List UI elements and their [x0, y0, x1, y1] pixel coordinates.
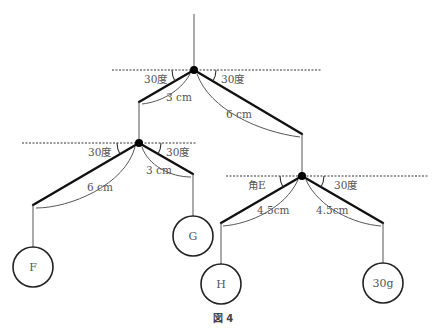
left-pivot: [135, 139, 143, 147]
right-right-angle-arc: [321, 176, 324, 187]
right-right-angle-label: 30度: [334, 179, 358, 191]
left-left-length-label: 6 cm: [87, 181, 113, 193]
right-pivot: [298, 172, 306, 180]
weight-h-label: H: [216, 278, 226, 291]
weight-30g-label: 30g: [372, 277, 393, 290]
left-right-angle-label: 30度: [166, 146, 190, 158]
top-lever-right-arm: [194, 70, 302, 134]
figure-caption: 図 4: [213, 313, 233, 324]
top-left-length-label: 3 cm: [166, 91, 192, 103]
right-left-angle-label: 角E: [248, 179, 266, 191]
mobile-diagram: 30度 30度 3 cm 6 cm 30度 30度 6 cm 3 cm 角E 3…: [0, 0, 438, 333]
top-left-angle-arc: [172, 70, 175, 81]
top-left-angle-label: 30度: [144, 73, 168, 85]
weight-g-label: G: [189, 230, 198, 243]
left-left-angle-arc: [117, 143, 120, 154]
top-right-length-arc: [197, 74, 300, 137]
right-left-length-label: 4.5cm: [257, 204, 290, 216]
top-right-length-label: 6 cm: [226, 108, 252, 120]
top-right-angle-arc: [213, 70, 216, 81]
weight-f-label: F: [29, 261, 37, 274]
left-left-angle-label: 30度: [88, 146, 112, 158]
right-right-length-label: 4.5cm: [316, 204, 349, 216]
right-left-angle-arc: [280, 176, 283, 187]
top-pivot: [190, 66, 198, 74]
left-left-length-arc: [36, 147, 135, 208]
left-right-length-label: 3 cm: [146, 164, 172, 176]
top-right-angle-label: 30度: [221, 73, 245, 85]
left-right-angle-arc: [158, 143, 161, 154]
